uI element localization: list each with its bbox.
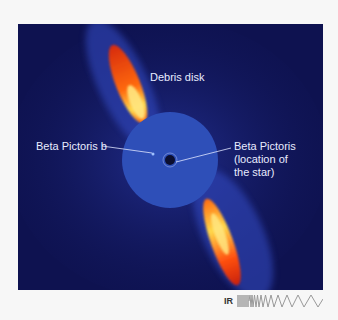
star-label-line3: the star) [234,166,274,179]
ir-band-label: IR [224,296,233,306]
astronomy-image: Debris disk Beta Pictoris b Beta Pictori… [18,24,323,290]
spectrum-key: IR [224,293,324,311]
planet-label: Beta Pictoris b [36,140,107,153]
star-label-line2: (location of [234,153,288,166]
debris-disk-label: Debris disk [150,71,204,84]
star-label-line1: Beta Pictoris [234,140,296,153]
wavelength-spectrum-icon [237,293,323,309]
